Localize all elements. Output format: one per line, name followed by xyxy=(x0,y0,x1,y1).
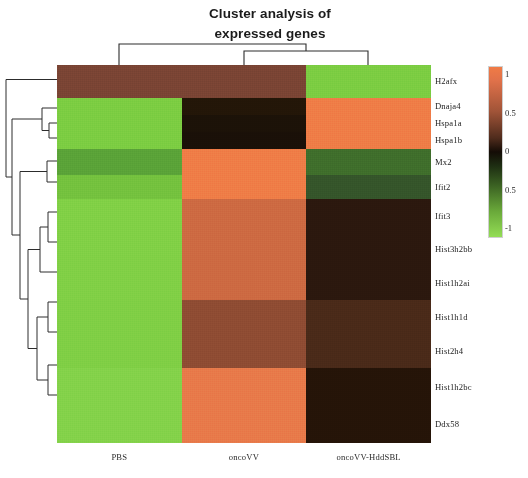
row-dendrogram xyxy=(2,65,57,443)
heatmap-grid xyxy=(57,65,431,443)
gene-label: Hist1h2bc xyxy=(435,382,472,392)
heatmap-cell xyxy=(182,115,307,132)
gene-label: Hspa1b xyxy=(435,135,462,145)
heatmap-cell xyxy=(306,334,431,368)
gene-label: Ifit3 xyxy=(435,211,451,221)
heatmap-cell xyxy=(182,199,307,233)
heatmap-cell xyxy=(57,266,182,300)
heatmap-column-oncovv-hddsbl xyxy=(306,65,431,443)
heatmap-cell xyxy=(306,98,431,115)
heatmap-cell xyxy=(306,149,431,175)
colorbar-tick: 0.5 xyxy=(505,185,516,195)
heatmap-cell xyxy=(57,115,182,132)
heatmap-cell xyxy=(306,175,431,199)
heatmap-cell xyxy=(306,406,431,443)
colorbar-tick: -1 xyxy=(505,223,512,233)
heatmap-cell xyxy=(306,132,431,149)
colorbar-legend: 10.500.5-1 xyxy=(488,66,526,236)
heatmap-cell xyxy=(182,149,307,175)
gene-label: H2afx xyxy=(435,76,457,86)
heatmap-cell xyxy=(306,232,431,266)
colorbar-tick: 1 xyxy=(505,69,509,79)
heatmap-cell xyxy=(306,65,431,98)
colorbar-gradient xyxy=(488,66,503,238)
heatmap-cell xyxy=(306,300,431,334)
heatmap-cell xyxy=(182,300,307,334)
colorbar-tick: 0.5 xyxy=(505,108,516,118)
heatmap-cell xyxy=(182,175,307,199)
gene-label: Ifit2 xyxy=(435,182,451,192)
heatmap-column-pbs xyxy=(57,65,182,443)
heatmap-cell xyxy=(57,300,182,334)
heatmap-cell xyxy=(57,368,182,405)
gene-label: Dnaja4 xyxy=(435,101,461,111)
heatmap-column-oncovv xyxy=(182,65,307,443)
heatmap-cell xyxy=(57,232,182,266)
gene-label: Hist1h1d xyxy=(435,312,468,322)
condition-label-list: PBSoncoVVoncoVV-HddSBL xyxy=(57,452,431,472)
heatmap-cell xyxy=(57,199,182,233)
heatmap-cell xyxy=(57,334,182,368)
heatmap-cell xyxy=(182,65,307,98)
heatmap-cell xyxy=(306,368,431,405)
title-line-1: Cluster analysis of xyxy=(150,4,390,24)
condition-label: oncoVV-HddSBL xyxy=(306,452,431,462)
heatmap-cell xyxy=(57,149,182,175)
gene-label: Hist2h4 xyxy=(435,346,463,356)
gene-label: Mx2 xyxy=(435,157,452,167)
heatmap-figure: Cluster analysis of expressed genes xyxy=(0,0,528,478)
heatmap-cell xyxy=(182,406,307,443)
condition-label: oncoVV xyxy=(182,452,307,462)
heatmap-cell xyxy=(306,199,431,233)
page-title: Cluster analysis of expressed genes xyxy=(150,4,390,43)
colorbar-tick: 0 xyxy=(505,146,509,156)
heatmap-cell xyxy=(182,132,307,149)
heatmap-cell xyxy=(182,98,307,115)
heatmap-cell xyxy=(57,175,182,199)
heatmap-cell xyxy=(182,334,307,368)
gene-label: Ddx58 xyxy=(435,419,459,429)
heatmap-cell xyxy=(57,132,182,149)
heatmap-cell xyxy=(306,266,431,300)
condition-label: PBS xyxy=(57,452,182,462)
column-dendrogram xyxy=(57,40,431,65)
gene-label: Hist1h2ai xyxy=(435,278,470,288)
heatmap-cell xyxy=(182,266,307,300)
colorbar-tick-list: 10.500.5-1 xyxy=(505,66,527,236)
heatmap-cell xyxy=(57,65,182,98)
heatmap-cell xyxy=(182,232,307,266)
heatmap-cell xyxy=(57,98,182,115)
heatmap-cell xyxy=(57,406,182,443)
gene-label: Hist3h2bb xyxy=(435,244,472,254)
heatmap-cell xyxy=(182,368,307,405)
heatmap-cell xyxy=(306,115,431,132)
gene-label: Hspa1a xyxy=(435,118,462,128)
